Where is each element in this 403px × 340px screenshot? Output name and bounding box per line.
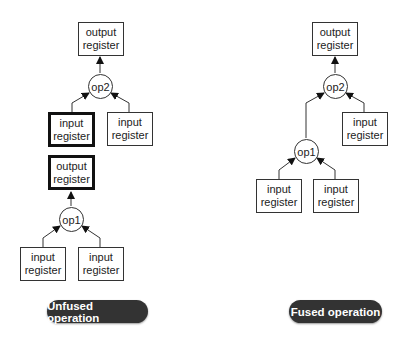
box-line: register bbox=[53, 130, 90, 143]
op-label: op1 bbox=[297, 146, 315, 158]
edge-in-op1 bbox=[43, 226, 60, 247]
fused-operation-label: Fused operation bbox=[289, 300, 382, 323]
unfused-input-register-a: input register bbox=[20, 247, 66, 281]
box-line: output bbox=[86, 26, 117, 39]
edge-in-op1 bbox=[317, 158, 335, 179]
fused-output-register: output register bbox=[312, 22, 358, 56]
unfused-operation-label: Unfused operation bbox=[47, 300, 148, 323]
box-line: register bbox=[25, 264, 62, 277]
unfused-op2-node: op2 bbox=[88, 74, 113, 99]
unfused-input-register-intermediate: input register bbox=[48, 112, 95, 147]
op-label: op2 bbox=[91, 81, 109, 93]
box-line: input bbox=[31, 251, 55, 264]
fused-input-register-b: input register bbox=[313, 179, 359, 213]
unfused-output-register-top: output register bbox=[78, 22, 124, 56]
op-label: op1 bbox=[62, 214, 80, 226]
box-line: register bbox=[318, 196, 355, 209]
fused-input-register-right: input register bbox=[342, 112, 388, 146]
edge-in-op1 bbox=[82, 226, 100, 247]
box-line: output bbox=[320, 26, 351, 39]
box-line: register bbox=[83, 39, 120, 52]
unfused-op1-node: op1 bbox=[59, 207, 84, 232]
box-line: register bbox=[317, 39, 354, 52]
unfused-output-register-intermediate: output register bbox=[48, 155, 95, 190]
edge-in-op2 bbox=[346, 93, 364, 112]
edge-in-op2 bbox=[111, 93, 129, 112]
box-line: register bbox=[112, 129, 149, 142]
fused-input-register-a: input register bbox=[256, 179, 302, 213]
edge-op1-op2 bbox=[306, 93, 324, 138]
box-line: input bbox=[118, 116, 142, 129]
box-line: register bbox=[261, 196, 298, 209]
unfused-input-register-right: input register bbox=[107, 112, 153, 146]
edge-in-op1 bbox=[279, 158, 295, 179]
box-line: register bbox=[347, 129, 384, 142]
fused-op1-node: op1 bbox=[294, 139, 319, 164]
unfused-input-register-b: input register bbox=[78, 247, 124, 281]
fused-op2-node: op2 bbox=[323, 74, 348, 99]
box-line: input bbox=[324, 183, 348, 196]
op-label: op2 bbox=[326, 81, 344, 93]
box-line: input bbox=[60, 117, 84, 130]
box-line: input bbox=[353, 116, 377, 129]
edge-in-op2 bbox=[72, 93, 89, 112]
box-line: register bbox=[83, 264, 120, 277]
box-line: input bbox=[267, 183, 291, 196]
box-line: output bbox=[56, 160, 87, 173]
box-line: input bbox=[89, 251, 113, 264]
box-line: register bbox=[53, 173, 90, 186]
